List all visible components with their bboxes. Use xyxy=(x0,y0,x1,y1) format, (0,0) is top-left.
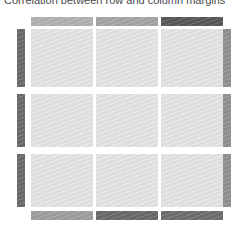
grid-cell-r2c1[interactable] xyxy=(31,94,93,147)
right-margin-bar-2[interactable] xyxy=(223,94,231,147)
grid-cell-r1c2[interactable] xyxy=(96,29,158,87)
left-margin-bar-1[interactable] xyxy=(17,29,25,87)
bottom-margin-bar-1[interactable] xyxy=(31,211,93,220)
bottom-margin-bar-2[interactable] xyxy=(96,211,158,220)
grid-cell-r2c3[interactable] xyxy=(161,94,223,147)
grid-cell-r3c3[interactable] xyxy=(161,154,223,207)
bottom-margin-bar-3[interactable] xyxy=(161,211,223,220)
right-margin-bar-3[interactable] xyxy=(223,154,231,207)
grid-cell-r2c2[interactable] xyxy=(96,94,158,147)
right-margin-bar-1[interactable] xyxy=(223,29,231,87)
grid-cell-r3c2[interactable] xyxy=(96,154,158,207)
grid-cell-r3c1[interactable] xyxy=(31,154,93,207)
grid-cell-r1c3[interactable] xyxy=(161,29,223,87)
figure-canvas: Correlation between row and column margi… xyxy=(0,0,243,234)
mosaic-plot xyxy=(0,0,243,234)
top-margin-bar-3[interactable] xyxy=(161,17,223,26)
top-margin-bar-2[interactable] xyxy=(96,17,158,26)
top-margin-bar-1[interactable] xyxy=(31,17,93,26)
left-margin-bar-3[interactable] xyxy=(17,154,25,207)
left-margin-bar-2[interactable] xyxy=(17,94,25,147)
grid-cell-r1c1[interactable] xyxy=(31,29,93,87)
